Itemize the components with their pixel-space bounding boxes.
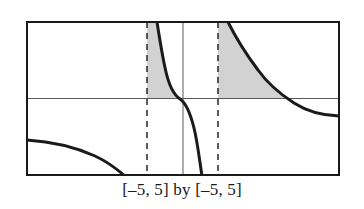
figure-caption: [–5, 5] by [–5, 5] [0,179,364,201]
plot-canvas [0,0,364,209]
graph-figure: [–5, 5] by [–5, 5] [0,0,364,209]
